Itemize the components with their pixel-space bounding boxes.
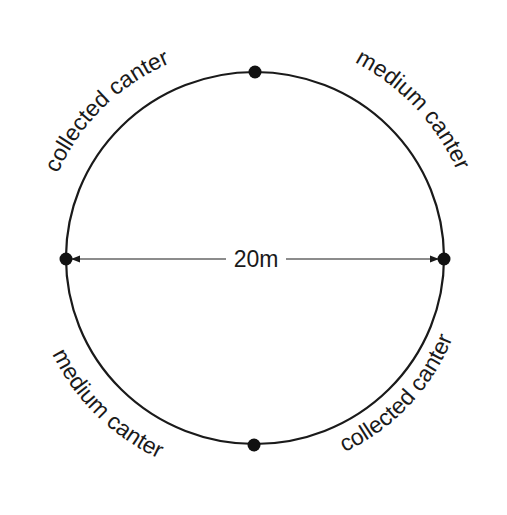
segment-label-top-left: collected canter (39, 44, 173, 176)
segment-label-top-right: medium canter (352, 44, 476, 174)
circle-diagram: 20m collected canter medium canter mediu… (0, 0, 507, 515)
marker-dot-top (249, 66, 262, 79)
segment-label-bottom-left: medium canter (48, 344, 169, 463)
segment-label-bottom-right: collected canter (335, 329, 457, 456)
diameter-label: 20m (234, 246, 279, 272)
marker-dot-right (438, 253, 451, 266)
marker-dot-left (60, 253, 73, 266)
marker-dot-bottom (248, 439, 261, 452)
